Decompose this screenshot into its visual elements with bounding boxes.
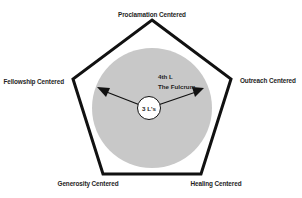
annotation-line2: The Fulcrum	[158, 83, 196, 90]
label-healing: Healing Centered	[191, 180, 242, 188]
annotation-line1: 4th L	[158, 73, 173, 80]
label-outreach: Outreach Centered	[240, 77, 296, 84]
label-fellowship: Fellowship Centered	[3, 78, 64, 86]
hub-label: 3 L's	[142, 105, 156, 112]
label-generosity: Generosity Centered	[58, 180, 119, 188]
pentagon-diagram: 3 L's 4th L The Fulcrum Proclamation Cen…	[0, 0, 302, 198]
label-proclamation: Proclamation Centered	[118, 11, 186, 18]
